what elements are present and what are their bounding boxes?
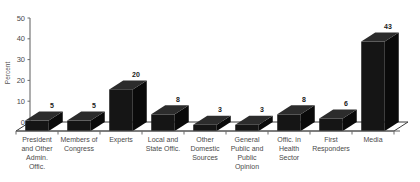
y-tick-label: 0	[21, 118, 25, 127]
y-tick-label: 50	[17, 14, 25, 23]
bar-front-face	[67, 121, 91, 131]
category-label: Other	[196, 136, 214, 143]
category-label: Congress	[64, 145, 94, 153]
y-tick-label: 20	[17, 76, 25, 85]
category-label: First	[324, 136, 338, 143]
category-label: Sector	[279, 154, 300, 161]
bar	[193, 116, 231, 131]
bar-value-label: 20	[132, 71, 140, 78]
bar-front-face	[235, 125, 259, 131]
y-axis-title: Percent	[4, 62, 11, 85]
bars-group	[25, 33, 399, 131]
category-labels-group: Presidentand OtherAdmin.Offic.Members of…	[21, 136, 382, 171]
category-label: Health	[279, 145, 299, 152]
category-label: Sources	[192, 154, 218, 161]
bar-value-label: 5	[50, 102, 54, 109]
category-label: Public and	[231, 145, 264, 152]
category-label: Offic. in	[277, 136, 301, 143]
bar-front-face	[109, 89, 133, 131]
bar-value-label: 8	[176, 96, 180, 103]
y-tick-group: 01020304050	[17, 14, 30, 127]
bar-value-label: 5	[92, 102, 96, 109]
category-label: and Other	[21, 145, 53, 152]
chart-canvas: 01020304050 55208338643 Presidentand Oth…	[0, 0, 420, 182]
category-label: Public	[237, 154, 257, 161]
value-labels-group: 55208338643	[50, 23, 392, 113]
y-tick-label: 10	[17, 97, 25, 106]
bar	[319, 110, 357, 131]
bar-front-face	[319, 119, 343, 131]
bar-side-face	[385, 33, 399, 131]
y-tick-label: 40	[17, 34, 25, 43]
bar-value-label: 3	[260, 106, 264, 113]
category-label: Media	[363, 136, 382, 143]
bar	[67, 112, 105, 131]
category-label: State Offic.	[146, 145, 181, 152]
category-label: Domestic	[190, 145, 220, 152]
bar-front-face	[277, 114, 301, 131]
bar-front-face	[193, 125, 217, 131]
x-tick-group	[16, 131, 394, 135]
category-label: Members of	[61, 136, 98, 143]
category-label: Offic.	[29, 163, 45, 170]
bar	[109, 80, 147, 131]
bar-value-label: 6	[344, 100, 348, 107]
bar	[277, 105, 315, 131]
category-label: Local and	[148, 136, 178, 143]
bar	[361, 33, 399, 131]
bar	[151, 105, 189, 131]
y-tick-label: 30	[17, 55, 25, 64]
bar-value-label: 43	[384, 23, 392, 30]
category-label: President	[22, 136, 52, 143]
category-label: General	[235, 136, 260, 143]
bar-front-face	[25, 121, 49, 131]
category-label: Opinion	[235, 163, 259, 171]
category-label: Admin.	[26, 154, 48, 161]
category-label: Experts	[109, 136, 133, 144]
bar-value-label: 8	[302, 96, 306, 103]
category-label: Responders	[312, 145, 350, 153]
bar-value-label: 3	[218, 106, 222, 113]
bar-front-face	[361, 42, 385, 131]
bar	[235, 116, 273, 131]
bar-chart: 01020304050 55208338643 Presidentand Oth…	[0, 0, 420, 182]
bar-front-face	[151, 114, 175, 131]
bar	[25, 112, 63, 131]
